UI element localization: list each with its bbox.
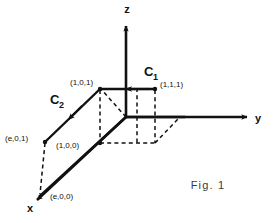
dashed-vertical-e01 [40, 143, 45, 194]
figure-caption: Fig. 1 [191, 179, 226, 191]
label-vertex-e-0-0: (e,0,0) [50, 192, 73, 201]
curve-labels: C 1 C 2 [50, 64, 158, 110]
edge-x-diagonal-lower [40, 117, 126, 196]
dot-vertex-1-0-1 [98, 87, 102, 91]
dashed-base-diagonal [155, 119, 178, 143]
z-axis-label: z [124, 3, 130, 15]
c2-direction-arrow [70, 106, 82, 118]
dot-vertex-1-1-1 [153, 87, 157, 91]
label-vertex-1-0-1: (1,0,1) [70, 78, 93, 87]
label-vertex-1-1-1: (1,1,1) [160, 80, 183, 89]
figure-canvas: z y x C 1 C 2 (1,0,1) (1,1,1) (e,0,1) (1… [0, 0, 274, 223]
dot-vertex-1-0-0 [98, 141, 102, 145]
x-axis-label: x [27, 202, 34, 214]
curve-c1-subscript: 1 [153, 72, 158, 82]
curve-c2-subscript: 2 [59, 100, 64, 110]
dot-vertex-e-0-1 [43, 140, 47, 144]
dashed-origin-to-101 [101, 89, 126, 117]
label-vertex-1-0-0: (1,0,0) [56, 141, 79, 150]
vertex-labels: (1,0,1) (1,1,1) (e,0,1) (1,0,0) (e,0,0) [5, 78, 183, 201]
label-vertex-e-0-1: (e,0,1) [5, 134, 28, 143]
figure-container: z y x C 1 C 2 (1,0,1) (1,1,1) (e,0,1) (1… [0, 0, 274, 223]
curve-direction-arrows [70, 89, 150, 118]
axes-group [37, 26, 247, 200]
y-axis-label: y [255, 112, 262, 124]
